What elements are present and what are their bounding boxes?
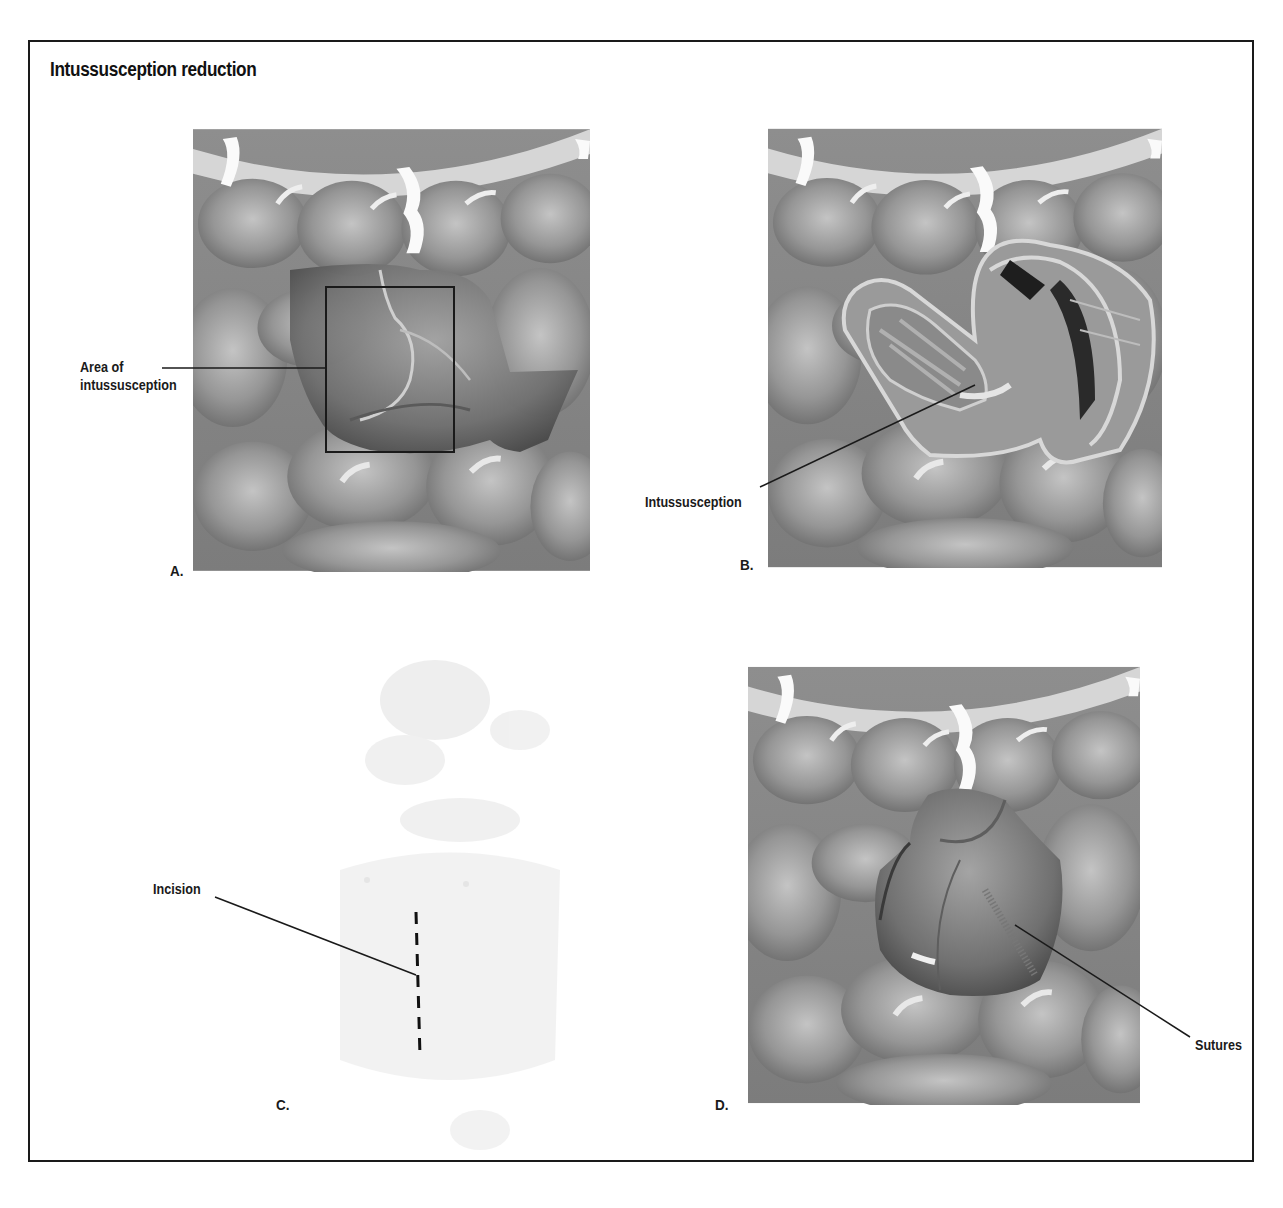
panel-letter-c: C. xyxy=(276,1096,290,1113)
panel-letter-d: D. xyxy=(715,1096,729,1113)
callout-area-of-intussusception: Area of intussusception xyxy=(80,358,177,394)
figure-illustrations xyxy=(0,0,1283,1208)
panel-a-illustration xyxy=(178,129,610,581)
callout-line-2: intussusception xyxy=(80,376,177,394)
panel-c-illustration xyxy=(340,660,560,1150)
panel-b-illustration xyxy=(753,129,1181,577)
callout-line-1: Area of xyxy=(80,358,177,376)
callout-intussusception: Intussusception xyxy=(645,493,742,511)
callout-sutures: Sutures xyxy=(1195,1036,1242,1054)
callout-incision: Incision xyxy=(153,880,201,898)
panel-d-illustration xyxy=(733,667,1159,1113)
panel-letter-b: B. xyxy=(740,556,754,573)
panel-letter-a: A. xyxy=(170,562,184,579)
